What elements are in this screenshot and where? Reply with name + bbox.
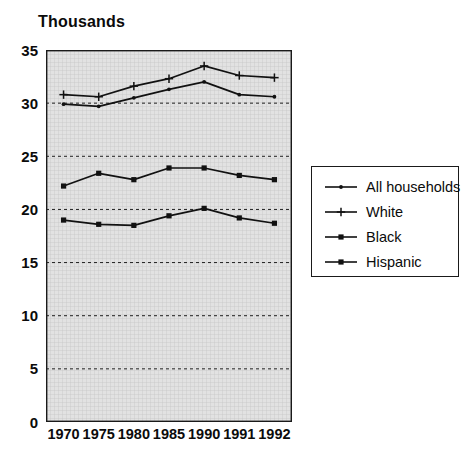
legend-item-all-households[interactable]: All households — [312, 174, 458, 199]
y-axis-tick-label: 0 — [4, 415, 38, 430]
y-axis-tick-label: 5 — [4, 361, 38, 376]
legend-item-label: White — [366, 204, 403, 220]
x-axis-tick-label: 1992 — [252, 427, 296, 442]
legend: All householdsWhiteBlackHispanic — [311, 166, 459, 277]
legend-item-label: Hispanic — [366, 254, 422, 270]
legend-item-hispanic[interactable]: Hispanic — [312, 249, 458, 274]
plot-svg — [46, 50, 292, 422]
y-axis-tick-label: 10 — [4, 308, 38, 323]
legend-item-label: Black — [366, 229, 401, 245]
plot-area — [46, 50, 292, 422]
legend-item-white[interactable]: White — [312, 199, 458, 224]
legend-marker-icon — [321, 177, 361, 197]
y-axis-tick-label: 30 — [4, 96, 38, 111]
page-title: Thousands — [38, 13, 125, 31]
y-axis-tick-label: 35 — [4, 43, 38, 58]
chart-page: Thousands 05101520253035 197019751980198… — [0, 0, 471, 460]
legend-item-black[interactable]: Black — [312, 224, 458, 249]
y-axis-tick-label: 15 — [4, 255, 38, 270]
legend-marker-icon — [321, 202, 361, 222]
y-axis-tick-label: 20 — [4, 202, 38, 217]
legend-marker-icon — [321, 227, 361, 247]
legend-marker-icon — [321, 252, 361, 272]
y-axis-tick-label: 25 — [4, 149, 38, 164]
legend-item-label: All households — [366, 179, 460, 195]
